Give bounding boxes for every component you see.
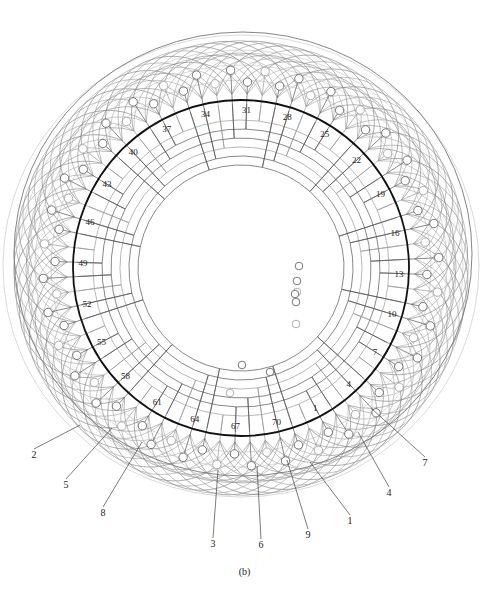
slot-label-1: 1 (313, 403, 318, 413)
winding-diagram: 1471013161922252831343740434649525558616… (0, 0, 489, 599)
callout-8: 8 (101, 507, 106, 518)
slot-label-19: 19 (376, 189, 386, 199)
slot-label-70: 70 (272, 417, 282, 427)
callout-4: 4 (387, 487, 392, 498)
slot-label-64: 64 (190, 414, 200, 424)
callout-6: 6 (259, 539, 264, 550)
slot-label-49: 49 (79, 258, 89, 268)
slot-label-43: 43 (103, 179, 113, 189)
callout-5: 5 (64, 479, 69, 490)
slot-label-10: 10 (388, 309, 398, 319)
slot-label-31: 31 (242, 105, 251, 115)
figure-caption: (b) (0, 566, 489, 577)
coil-connections (77, 104, 405, 432)
stator-circle (73, 100, 409, 436)
callout-2: 2 (32, 449, 37, 460)
end-winding-mesh (3, 32, 479, 497)
slot-label-40: 40 (129, 147, 139, 157)
slot-label-67: 67 (231, 421, 241, 431)
slot-label-25: 25 (320, 129, 330, 139)
slot-label-4: 4 (347, 379, 352, 389)
slot-label-52: 52 (83, 299, 92, 309)
slot-label-7: 7 (373, 347, 378, 357)
callout-9: 9 (306, 529, 311, 540)
slot-label-16: 16 (391, 228, 401, 238)
slot-label-55: 55 (97, 337, 107, 347)
slot-numbers: 1471013161922252831343740434649525558616… (79, 105, 404, 431)
slot-label-61: 61 (153, 397, 162, 407)
slot-label-28: 28 (283, 112, 293, 122)
slot-label-46: 46 (85, 217, 95, 227)
slot-label-37: 37 (162, 124, 172, 134)
slot-label-13: 13 (394, 269, 404, 279)
slot-label-22: 22 (352, 155, 361, 165)
slot-label-34: 34 (201, 109, 211, 119)
callout-7: 7 (423, 457, 428, 468)
slot-label-58: 58 (121, 371, 131, 381)
callout-3: 3 (211, 538, 216, 549)
callout-1: 1 (348, 515, 353, 526)
